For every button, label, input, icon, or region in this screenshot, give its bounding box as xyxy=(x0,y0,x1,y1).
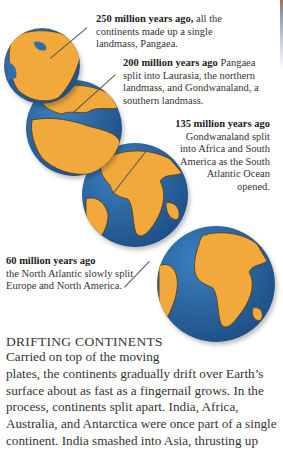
section-body: Carried on top of the moving plates, the… xyxy=(6,349,282,450)
caption-60-date: 60 million years ago xyxy=(6,255,142,268)
caption-200-date: 200 million years ago xyxy=(123,57,218,68)
caption-60-million: 60 million years ago the North Atlantic … xyxy=(6,255,142,293)
section-body-first-line: Carried on top of the moving xyxy=(6,349,176,366)
caption-135-million: 135 million years ago Gondwanaland split… xyxy=(172,118,270,193)
section-heading: DRIFTING CONTINENTS xyxy=(6,334,163,350)
globe-60-million xyxy=(157,226,275,342)
caption-135-date: 135 million years ago xyxy=(175,118,270,129)
globe-map-icon xyxy=(157,226,275,342)
caption-60-text: the North Atlantic slowly split Europe a… xyxy=(6,268,133,292)
globe-map-icon xyxy=(4,28,80,104)
caption-135-text: Gondwanaland split into Africa and South… xyxy=(180,131,270,192)
page-edge-strip xyxy=(280,0,283,70)
caption-250-million: 250 million years ago, all the continent… xyxy=(96,13,226,51)
globe-250-million xyxy=(4,28,80,104)
caption-250-date: 250 million years ago, xyxy=(96,13,193,24)
caption-200-million: 200 million years ago Pangaea split into… xyxy=(123,57,268,107)
section-body-rest: plates, the continents gradually drift o… xyxy=(6,366,277,448)
